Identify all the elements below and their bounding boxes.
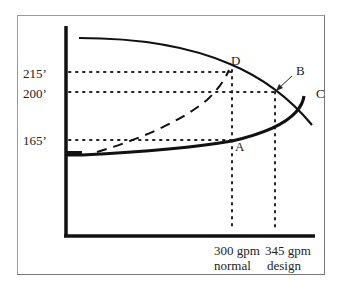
- x-tick-345: 345 gpm: [265, 244, 311, 257]
- y-tick-215: 215’: [23, 67, 47, 80]
- x-tick-345-sub: design: [267, 259, 301, 272]
- point-a-label: A: [235, 140, 244, 153]
- system-curve-start: [67, 151, 82, 156]
- y-tick-165: 165’: [23, 134, 47, 147]
- pump-curve: [79, 38, 312, 125]
- y-tick-200: 200’: [23, 87, 47, 100]
- x-tick-300: 300 gpm: [214, 244, 260, 257]
- point-d-label: D: [231, 54, 240, 67]
- point-c-label: C: [316, 87, 325, 100]
- system-curve: [67, 96, 304, 155]
- x-tick-300-sub: normal: [214, 259, 251, 272]
- point-b-label: B: [296, 64, 305, 77]
